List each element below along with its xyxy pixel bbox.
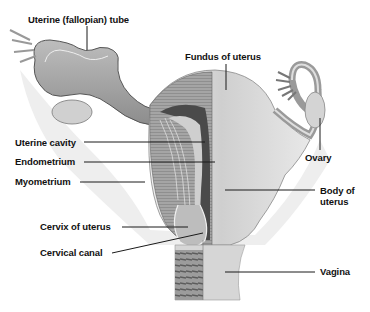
vagina-rugae bbox=[175, 250, 203, 300]
label-cervix: Cervix of uterus bbox=[40, 221, 111, 232]
label-endometrium: Endometrium bbox=[15, 156, 75, 167]
cervix-shape bbox=[174, 205, 206, 247]
label-myometrium: Myometrium bbox=[15, 176, 70, 187]
label-body-of-uterus: Body of uterus bbox=[320, 185, 360, 207]
label-uterine-tube: Uterine (fallopian) tube bbox=[28, 14, 129, 25]
label-uterine-cavity: Uterine cavity bbox=[15, 137, 76, 148]
anatomy-diagram: Uterine (fallopian) tube Fundus of uteru… bbox=[0, 0, 370, 312]
label-ovary: Ovary bbox=[305, 152, 331, 163]
left-ovary bbox=[52, 100, 92, 124]
right-ovary bbox=[305, 92, 325, 128]
label-vagina: Vagina bbox=[320, 266, 350, 277]
label-fundus: Fundus of uterus bbox=[185, 51, 261, 62]
label-cervical-canal: Cervical canal bbox=[40, 247, 103, 258]
